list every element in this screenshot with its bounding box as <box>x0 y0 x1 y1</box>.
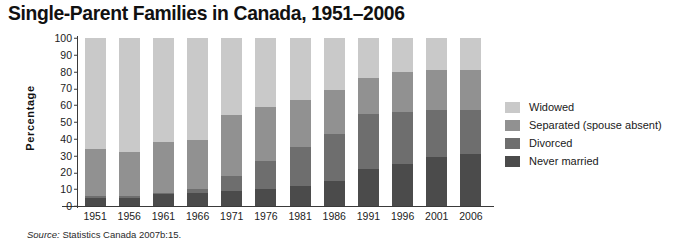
y-tick-label: 20 <box>60 167 78 178</box>
source-label: Source: <box>27 229 60 240</box>
bar-segment <box>85 38 106 149</box>
y-tick-label: 0 <box>66 201 78 212</box>
bar-segment <box>255 38 276 107</box>
bar-segment <box>426 38 447 70</box>
y-tick-label: 30 <box>60 150 78 161</box>
x-tick-label: 2006 <box>459 210 482 222</box>
plot-area: 0102030405060708090100 <box>78 38 488 206</box>
bar-segment <box>187 38 208 140</box>
bar-segment <box>221 115 242 175</box>
bar-1951 <box>85 38 106 206</box>
legend-item: Separated (spouse absent) <box>505 116 690 134</box>
y-tick-label: 80 <box>60 66 78 77</box>
legend-swatch <box>505 156 520 167</box>
bar-segment <box>392 112 413 164</box>
bar-segment <box>460 70 481 110</box>
y-tick-label: 10 <box>60 184 78 195</box>
bar-segment <box>324 90 345 134</box>
x-tick-label: 1981 <box>288 210 311 222</box>
bar-segment <box>187 140 208 189</box>
bar-segment <box>358 114 379 169</box>
bar-1976 <box>255 38 276 206</box>
legend-label: Separated (spouse absent) <box>529 119 662 131</box>
chart-figure: Single-Parent Families in Canada, 1951–2… <box>0 0 693 250</box>
bar-segment <box>426 110 447 157</box>
bar-1966 <box>187 38 208 206</box>
legend-item: Never married <box>505 152 690 170</box>
chart-legend: WidowedSeparated (spouse absent)Divorced… <box>505 98 690 170</box>
bar-segment <box>358 169 379 206</box>
bar-segment <box>153 38 174 142</box>
bar-segment <box>358 78 379 113</box>
bar-segment <box>392 164 413 206</box>
x-tick-label: 1971 <box>220 210 243 222</box>
bar-segment <box>85 149 106 196</box>
bar-segment <box>221 191 242 206</box>
bar-1996 <box>392 38 413 206</box>
x-axis-line <box>62 206 494 207</box>
legend-label: Divorced <box>529 137 572 149</box>
y-tick-label: 40 <box>60 134 78 145</box>
legend-label: Widowed <box>529 101 574 113</box>
bar-segment <box>460 38 481 70</box>
bar-1971 <box>221 38 242 206</box>
bar-segment <box>426 70 447 110</box>
y-tick-label: 90 <box>60 50 78 61</box>
bar-segment <box>85 198 106 206</box>
bar-1981 <box>290 38 311 206</box>
legend-item: Divorced <box>505 134 690 152</box>
y-tick-label: 50 <box>60 117 78 128</box>
bar-segment <box>153 142 174 192</box>
y-tick-label: 70 <box>60 83 78 94</box>
bar-2006 <box>460 38 481 206</box>
bar-segment <box>255 107 276 161</box>
legend-swatch <box>505 138 520 149</box>
bar-segment <box>324 134 345 181</box>
bar-segment <box>460 110 481 154</box>
bar-segment <box>392 72 413 112</box>
legend-label: Never married <box>529 155 599 167</box>
bar-segment <box>119 198 140 206</box>
bar-segment <box>221 176 242 191</box>
legend-swatch <box>505 102 520 113</box>
bar-2001 <box>426 38 447 206</box>
bar-segment <box>290 38 311 100</box>
bar-segment <box>187 193 208 206</box>
y-tick-label: 100 <box>54 33 78 44</box>
bar-1956 <box>119 38 140 206</box>
x-tick-label: 2001 <box>425 210 448 222</box>
bar-segment <box>426 157 447 206</box>
bar-1961 <box>153 38 174 206</box>
bar-segment <box>153 194 174 206</box>
source-note: Source: Statistics Canada 2007b:15. <box>27 229 181 240</box>
x-tick-label: 1976 <box>254 210 277 222</box>
x-tick-label: 1996 <box>391 210 414 222</box>
bar-segment <box>119 38 140 152</box>
bar-segment <box>324 38 345 90</box>
x-tick-label: 1956 <box>118 210 141 222</box>
bar-segment <box>392 38 413 72</box>
x-tick-label: 1961 <box>152 210 175 222</box>
x-tick-label: 1951 <box>83 210 106 222</box>
legend-swatch <box>505 120 520 131</box>
y-axis-label: Percentage <box>24 85 36 150</box>
bar-segment <box>290 147 311 186</box>
bar-segment <box>358 38 379 78</box>
bar-segment <box>255 189 276 206</box>
bar-segment <box>324 181 345 206</box>
x-tick-label: 1991 <box>357 210 380 222</box>
chart-title: Single-Parent Families in Canada, 1951–2… <box>8 1 405 25</box>
bar-1991 <box>358 38 379 206</box>
bar-segment <box>119 152 140 196</box>
source-text: Statistics Canada 2007b:15. <box>60 229 181 240</box>
bar-1986 <box>324 38 345 206</box>
bar-segment <box>290 186 311 206</box>
bar-segment <box>255 161 276 190</box>
x-tick-label: 1986 <box>323 210 346 222</box>
bar-segment <box>221 38 242 115</box>
y-tick-label: 60 <box>60 100 78 111</box>
legend-item: Widowed <box>505 98 690 116</box>
bar-segment <box>290 100 311 147</box>
x-tick-label: 1966 <box>186 210 209 222</box>
bar-segment <box>460 154 481 206</box>
